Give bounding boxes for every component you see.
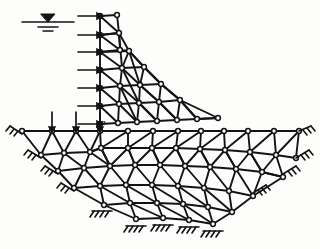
- horizontal-load-arrow: [78, 49, 103, 55]
- mesh-nodes: [20, 13, 302, 227]
- hatched-fixed-support: [151, 225, 173, 231]
- hatched-fixed-support: [201, 231, 223, 237]
- mesh-canvas: [0, 0, 320, 249]
- vertical-load-arrows: [49, 112, 103, 132]
- hatched-fixed-support: [283, 166, 300, 176]
- horizontal-load-arrow: [78, 103, 103, 109]
- vertical-load-arrow: [49, 112, 55, 132]
- spacing-label-n: n: [101, 119, 105, 127]
- hatched-fixed-support: [124, 226, 146, 232]
- hatched-fixed-support: [177, 227, 199, 233]
- horizontal-load-arrow: [78, 32, 103, 38]
- groundwater-table-symbol: [22, 14, 74, 31]
- horizontal-load-arrow: [78, 85, 103, 91]
- horizontal-load-arrow: [78, 67, 103, 73]
- hatched-fixed-support: [299, 126, 315, 135]
- hatched-fixed-support: [90, 211, 112, 217]
- fem-mesh-figure: n: [0, 0, 320, 249]
- horizontal-load-arrow: [78, 13, 103, 19]
- vertical-load-arrow: [73, 112, 79, 132]
- mesh-edges: [22, 15, 299, 224]
